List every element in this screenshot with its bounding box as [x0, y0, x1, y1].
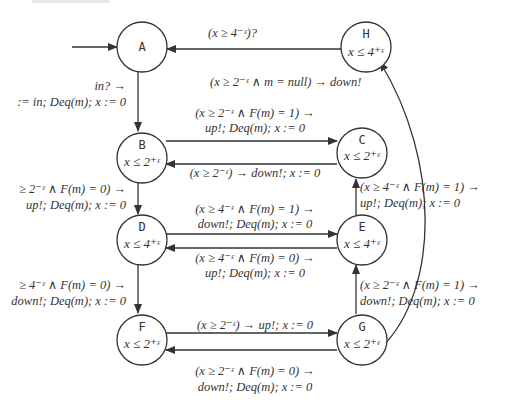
edge-label-B-C-action: up!; Deq(m); x := 0 — [160, 121, 350, 135]
edge-label-B-C-guard: (x ≥ 2⁻ᵋ ∧ F(m) = 1) → — [160, 106, 350, 120]
edge-label-E-C-guard: (x ≥ 4⁻ᵋ ∧ F(m) = 1) → — [360, 180, 480, 194]
edge-label-G-E-action: down!; Deq(m); x := 0 — [360, 294, 475, 308]
edge-label-B-H: (x ≥ 2⁻ᵋ ∧ m = null) → down! — [210, 75, 361, 89]
edge-label-A-B-guard: in? → — [94, 79, 126, 93]
edge-label-C-B: (x ≥ 2⁻ᵋ) → down!; x := 0 — [160, 166, 350, 180]
edge-label-D-E-guard: (x ≥ 4⁻ᵋ ∧ F(m) = 1) → — [160, 202, 350, 216]
node-A-name: A — [118, 40, 166, 54]
node-D-invariant: x ≤ 4⁺ᵋ — [116, 236, 168, 252]
node-F-invariant: x ≤ 2⁺ᵋ — [116, 336, 168, 352]
node-B-name: B — [118, 138, 166, 152]
edge-label-E-C-action: up!; Deq(m); x := 0 — [360, 196, 460, 210]
node-D-name: D — [118, 220, 166, 234]
edge-label-G-E-guard: (x ≥ 2⁻ᵋ ∧ F(m) = 1) → — [360, 278, 480, 292]
node-C-invariant: x ≤ 2⁺ᵋ — [336, 148, 388, 164]
edge-label-B-D-action: up!; Deq(m); x := 0 — [26, 198, 126, 212]
node-G-invariant: x ≤ 2⁺ᵋ — [336, 336, 388, 352]
node-H-invariant: x ≤ 4⁺ᵋ — [340, 44, 392, 60]
edge-label-D-E-action: down!; Deq(m); x := 0 — [160, 217, 350, 231]
edge-label-F-G: (x ≥ 2⁻ᵋ) → up!; x := 0 — [160, 318, 350, 332]
edge-label-B-D-guard: ≥ 2⁻ᵋ ∧ F(m) = 0) → — [19, 182, 126, 196]
node-H-name: H — [342, 27, 390, 41]
node-C-name: C — [338, 133, 386, 147]
edge-label-H-A: (x ≥ 4⁻ᵋ)? — [208, 26, 257, 40]
node-F-name: F — [118, 320, 166, 334]
edge-label-G-F-action: down!; Deq(m); x := 0 — [160, 380, 350, 394]
edge-label-G-F-guard: (x ≥ 2⁻ᵋ ∧ F(m) = 0) → — [160, 364, 350, 378]
edge-label-D-F-guard: ≥ 4⁻ᵋ ∧ F(m) = 0) → — [19, 278, 126, 292]
edge-label-E-D-action: up!; Deq(m); x := 0 — [160, 266, 350, 280]
edge-label-E-D-guard: (x ≥ 4⁻ᵋ ∧ F(m) = 0) → — [160, 251, 350, 265]
edge-label-D-F-action: down!; Deq(m); x := 0 — [11, 294, 126, 308]
edge-label-A-B-action: := in; Deq(m); x := 0 — [17, 95, 126, 109]
node-E-invariant: x ≤ 4⁺ᵋ — [336, 236, 388, 252]
